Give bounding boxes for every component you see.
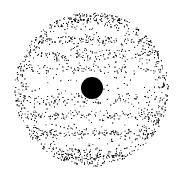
planet-illustration	[0, 0, 182, 187]
dark-spot	[81, 77, 103, 99]
